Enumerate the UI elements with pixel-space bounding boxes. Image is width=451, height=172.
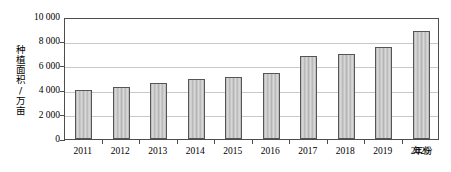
x-axis-tick-mark — [402, 140, 403, 144]
bar — [188, 79, 205, 139]
x-axis-tick-label: 2015 — [216, 146, 250, 156]
y-axis-tick-mark — [60, 91, 65, 92]
x-axis-tick-label: 2017 — [291, 146, 325, 156]
x-axis-tick-mark — [364, 140, 365, 144]
x-axis-tick-mark — [252, 140, 253, 144]
x-axis-tick-label: 2016 — [253, 146, 287, 156]
y-axis-tick-labels: 02 0004 0006 0008 00010 000 — [14, 0, 60, 172]
y-axis-tick-label: 6 000 — [14, 62, 60, 72]
x-axis-tick-label: 2013 — [141, 146, 175, 156]
bar — [75, 90, 92, 139]
y-axis-tick-label: 4 000 — [14, 86, 60, 96]
x-axis-tick-label: 2011 — [66, 146, 100, 156]
bar — [338, 54, 355, 139]
bar — [113, 87, 130, 139]
x-axis-tick-label: 2020 — [403, 146, 437, 156]
bar-chart: 种植面积/万亩 02 0004 0006 0008 00010 000 年份 2… — [0, 0, 451, 172]
gridline — [65, 43, 438, 44]
bar — [413, 31, 430, 139]
bar — [263, 73, 280, 139]
x-axis-tick-mark — [289, 140, 290, 144]
x-axis-tick-mark — [139, 140, 140, 144]
x-axis-tick-label: 2019 — [366, 146, 400, 156]
x-axis-tick-mark — [214, 140, 215, 144]
plot-area — [64, 18, 439, 140]
bar — [375, 47, 392, 139]
bar — [225, 77, 242, 139]
y-axis-tick-label: 8 000 — [14, 37, 60, 47]
x-axis-tick-mark — [102, 140, 103, 144]
y-axis-tick-label: 10 000 — [14, 13, 60, 23]
bar — [300, 56, 317, 139]
y-axis-tick-mark — [60, 115, 65, 116]
bar — [150, 83, 167, 139]
y-axis-tick-label: 0 — [14, 135, 60, 145]
y-axis-tick-mark — [60, 42, 65, 43]
x-axis-tick-label: 2014 — [178, 146, 212, 156]
y-axis-tick-mark — [60, 66, 65, 67]
x-axis-tick-mark — [177, 140, 178, 144]
x-axis-tick-mark — [327, 140, 328, 144]
x-axis-tick-label: 2018 — [328, 146, 362, 156]
x-axis-tick-label: 2012 — [103, 146, 137, 156]
y-axis-tick-mark — [60, 140, 65, 141]
y-axis-tick-label: 2 000 — [14, 111, 60, 121]
